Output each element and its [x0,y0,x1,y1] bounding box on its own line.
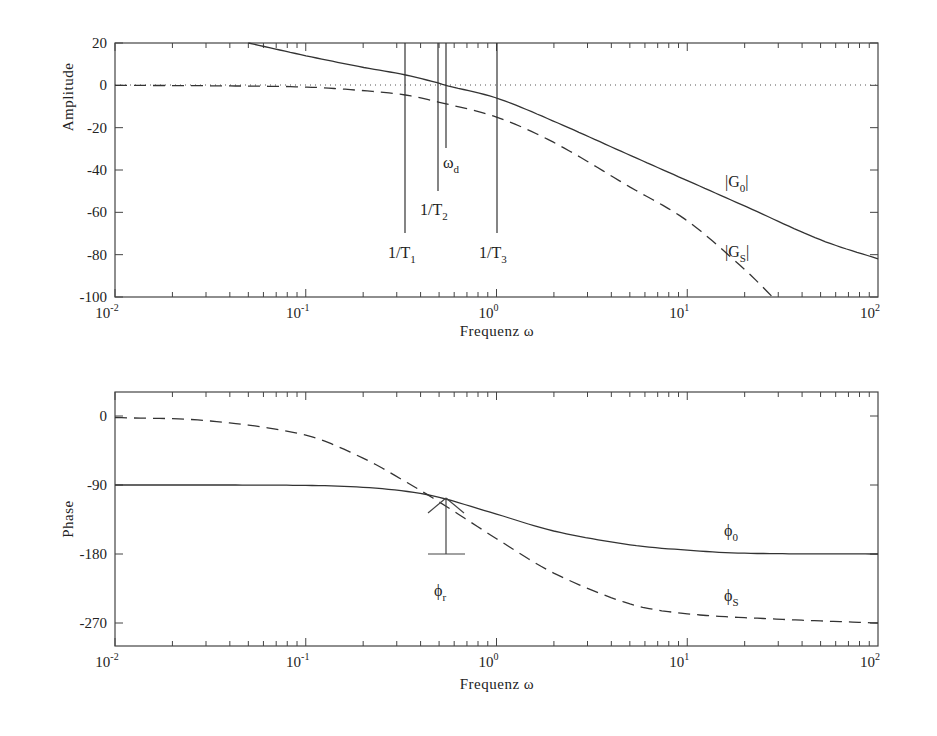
x-tick-label: 102 [860,302,880,321]
amplitude-plot: 200-20-40-60-80-100 1/T1 1/T2 ωd 1/T3 |G… [60,35,880,339]
series-GS-line [115,85,773,297]
bode-plot: 200-20-40-60-80-100 1/T1 1/T2 ωd 1/T3 |G… [0,0,937,736]
x-tick-labels: 10-210-1100101102 [95,651,880,670]
label-phi-r: ϕr [434,582,446,603]
y-tick-label: -180 [80,546,108,562]
y-axis-title: Phase [60,500,76,538]
x-tick-label: 101 [669,651,689,670]
y-tick-label: 20 [92,35,107,51]
label-1-T2: 1/T2 [420,201,448,222]
x-tick-label: 100 [479,651,499,670]
y-tick-label: -80 [87,247,107,263]
label-phiS: ϕS [724,587,739,608]
series-phiS-line [115,418,878,624]
y-axis-title: Amplitude [60,63,76,132]
plot-frame [115,392,878,646]
y-tick-label: 0 [100,77,108,93]
x-tick-labels: 10-210-1100101102 [95,302,880,321]
label-phi0: ϕ0 [724,522,738,543]
x-tick-label: 102 [860,651,880,670]
label-1-T3: 1/T3 [479,244,507,265]
y-tick-label: -60 [87,204,107,220]
series-G0-line [248,43,878,259]
corner-frequency-lines [405,43,497,233]
x-tick-label: 10-2 [95,651,118,670]
label-omega-d: ωd [443,154,460,175]
y-tick-label: -40 [87,162,107,178]
y-tick-label: -100 [80,289,108,305]
y-tick-label: -20 [87,120,107,136]
x-tick-label: 100 [479,302,499,321]
x-tick-label: 10-1 [286,302,309,321]
y-tick-label: 0 [100,408,108,424]
x-axis-title: Frequenz ω [460,676,534,692]
phase-plot: 0-90-180-270 ϕr ϕ0 ϕS Phase Frequenz ω 1… [60,392,880,692]
y-tick-label: -90 [87,477,107,493]
phase-margin-arrow [428,498,465,554]
x-axis-title: Frequenz ω [460,323,534,339]
y-ticks: 200-20-40-60-80-100 [80,35,879,305]
label-G0: |G0| [725,173,748,194]
x-minor-ticks [115,392,869,646]
series-phi0-line [115,485,878,554]
y-tick-label: -270 [80,615,108,631]
label-GS: |GS| [725,243,749,264]
label-1-T1: 1/T1 [388,244,416,265]
x-tick-label: 10-2 [95,302,118,321]
y-ticks: 0-90-180-270 [80,408,879,631]
x-tick-label: 101 [669,302,689,321]
x-tick-label: 10-1 [286,651,309,670]
